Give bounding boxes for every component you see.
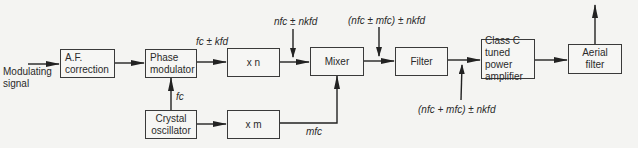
xm-to-mixer-arrow <box>280 76 337 123</box>
multiplier-n-block: x n <box>227 48 280 77</box>
pm-output-label: fc ± kfd <box>196 36 228 47</box>
phase-modulator-block: Phase modulator <box>145 49 197 78</box>
af-correction-block: A.F. correction <box>60 49 115 78</box>
class-c-amplifier-block: Class C tuned power amplifier <box>481 39 535 79</box>
modulating-signal-label: Modulating signal <box>3 66 52 90</box>
crystal-oscillator-block: Crystal oscillator <box>145 110 197 139</box>
multiplier-m-block: x m <box>227 110 280 139</box>
filter-out-pointer <box>461 65 462 100</box>
fc-label: fc <box>176 91 184 102</box>
filter-block: Filter <box>395 47 448 76</box>
xn-output-label: nfc ± nkfd <box>274 16 317 27</box>
mixer-output-label: (nfc ± mfc) ± nkfd <box>348 15 425 26</box>
filter-output-label: (nfc + mfc) ± nkfd <box>418 104 495 115</box>
aerial-filter-block: Aerial filter <box>568 44 622 74</box>
xm-output-label: mfc <box>306 126 322 137</box>
mixer-block: Mixer <box>310 47 364 76</box>
